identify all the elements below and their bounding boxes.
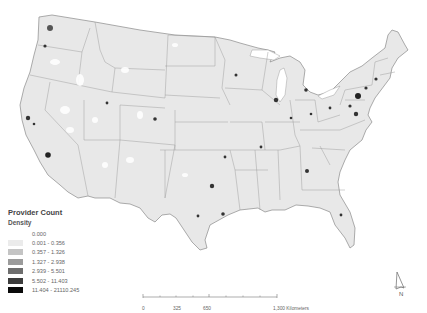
scale-tick-0: 0 xyxy=(142,306,145,311)
legend-row: 2.939 - 5.501 xyxy=(8,267,126,276)
legend-label: 0.000 xyxy=(32,231,46,237)
legend-swatch xyxy=(8,249,23,255)
north-arrow-icon xyxy=(392,270,412,292)
scale-tick-650: 650 xyxy=(203,306,211,311)
legend-label: 0.357 - 1.326 xyxy=(32,249,65,255)
legend-swatch xyxy=(8,240,23,246)
legend-row: 11.404 - 21110.245 xyxy=(8,285,126,294)
scale-bar-line xyxy=(142,292,362,300)
legend-title: Provider Count xyxy=(8,208,126,217)
legend-label: 5.502 - 11.403 xyxy=(32,278,68,284)
north-label: N xyxy=(399,291,403,297)
scale-tick-325: 325 xyxy=(173,306,181,311)
legend-row: 0.357 - 1.326 xyxy=(8,248,126,257)
scale-bar: 0 325 650 1,300 Kilometers xyxy=(142,286,362,312)
legend-row: 1.327 - 2.938 xyxy=(8,257,126,266)
legend-label: 1.327 - 2.938 xyxy=(32,259,65,265)
legend-label: 11.404 - 21110.245 xyxy=(32,287,79,293)
map-legend: Provider Count Density 0.000 0.001 - 0.3… xyxy=(8,208,126,295)
legend-swatch xyxy=(8,268,23,274)
north-arrow: N xyxy=(392,270,412,300)
legend-swatch xyxy=(8,259,23,265)
legend-swatch xyxy=(8,278,23,284)
legend-swatch xyxy=(8,231,23,237)
legend-subtitle: Density xyxy=(8,219,126,226)
legend-row: 5.502 - 11.403 xyxy=(8,276,126,285)
legend-row: 0.001 - 0.356 xyxy=(8,238,126,247)
legend-row: 0.000 xyxy=(8,229,126,238)
scale-tick-1300: 1,300 Kilometers xyxy=(273,306,309,311)
legend-swatch xyxy=(8,287,23,293)
legend-label: 2.939 - 5.501 xyxy=(32,268,65,274)
legend-label: 0.001 - 0.356 xyxy=(32,240,65,246)
